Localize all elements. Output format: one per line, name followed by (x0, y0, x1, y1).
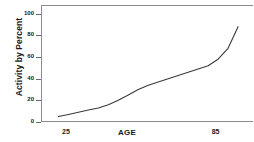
y-tick-label: 100 (24, 10, 34, 17)
y-tick-label: 80 (27, 31, 34, 38)
y-tick-label: 20 (27, 96, 34, 103)
y-tick-label: 60 (27, 53, 34, 60)
y-tick-label: 0 (31, 118, 34, 125)
data-line-curve (41, 5, 253, 122)
y-tick: 0 (0, 122, 41, 123)
y-tick-label: 40 (27, 75, 34, 82)
x-axis-title: AGE (0, 128, 254, 137)
y-axis-title: Activity by Percent (14, 2, 24, 112)
y-tick-mark (36, 122, 41, 123)
chart-figure: 020406080100 Activity by Percent 2585 AG… (0, 0, 254, 142)
